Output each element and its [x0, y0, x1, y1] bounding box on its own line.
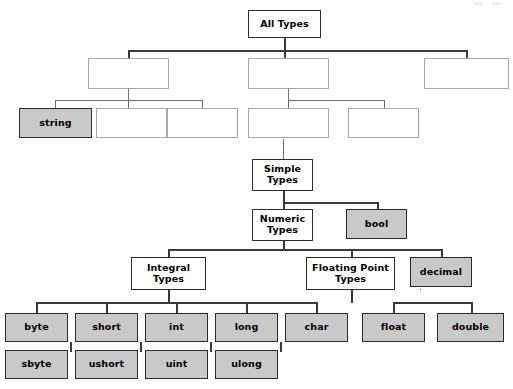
- node-bool: bool: [346, 209, 407, 239]
- node-all-types: All Types: [248, 10, 321, 38]
- connector-line: [70, 342, 72, 352]
- node-byte: byte: [5, 313, 68, 342]
- node-long: long: [215, 313, 278, 342]
- node-simple-types: Simple Types: [252, 159, 313, 191]
- node-int: int: [145, 313, 208, 342]
- node-ushort: ushort: [75, 350, 138, 379]
- node-sbyte: sbyte: [5, 350, 68, 379]
- node-ulong: ulong: [215, 350, 278, 379]
- connector-line: [283, 139, 284, 160]
- connector-line: [140, 342, 142, 352]
- node-double: double: [437, 313, 504, 342]
- node-l2-right: [424, 58, 509, 89]
- connector-line: [280, 342, 282, 352]
- node-short: short: [75, 313, 138, 342]
- connector-line: [351, 302, 353, 303]
- node-numeric-types: Numeric Types: [252, 209, 313, 241]
- node-uint: uint: [145, 350, 208, 379]
- node-floating-point-types: Floating Point Types: [306, 257, 395, 290]
- connector-line: [168, 249, 441, 251]
- type-hierarchy-diagram: All TypesstringSimple TypesNumeric Types…: [0, 0, 513, 389]
- node-float: float: [362, 313, 425, 342]
- node-integral-types: Integral Types: [131, 257, 206, 290]
- node-l3-c: [248, 108, 329, 138]
- node-decimal: decimal: [410, 257, 472, 287]
- node-char: char: [285, 313, 348, 342]
- connector-line: [420, 289, 421, 290]
- node-l2-left: [88, 58, 169, 89]
- scan-artifact: [492, 2, 501, 5]
- node-string: string: [19, 108, 92, 138]
- connector-line: [283, 202, 377, 204]
- scan-artifact: [474, 2, 483, 5]
- node-l3-d: [348, 108, 419, 138]
- connector-line: [210, 342, 212, 352]
- connector-line: [288, 89, 289, 100]
- node-l3-a: [96, 108, 167, 138]
- node-l3-b: [167, 108, 238, 138]
- connector-line: [128, 50, 466, 52]
- connector-line: [393, 302, 471, 304]
- connector-line: [128, 89, 129, 100]
- connector-line: [288, 100, 384, 101]
- node-l2-mid: [248, 58, 329, 89]
